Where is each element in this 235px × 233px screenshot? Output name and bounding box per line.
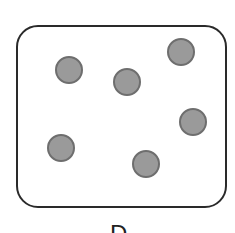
circle-particle [113, 68, 141, 96]
circle-particle [179, 108, 207, 136]
circle-particle [132, 150, 160, 178]
circle-particle [55, 56, 83, 84]
circle-particle [47, 134, 75, 162]
circle-particle [167, 38, 195, 66]
panel-label: D [110, 222, 127, 233]
